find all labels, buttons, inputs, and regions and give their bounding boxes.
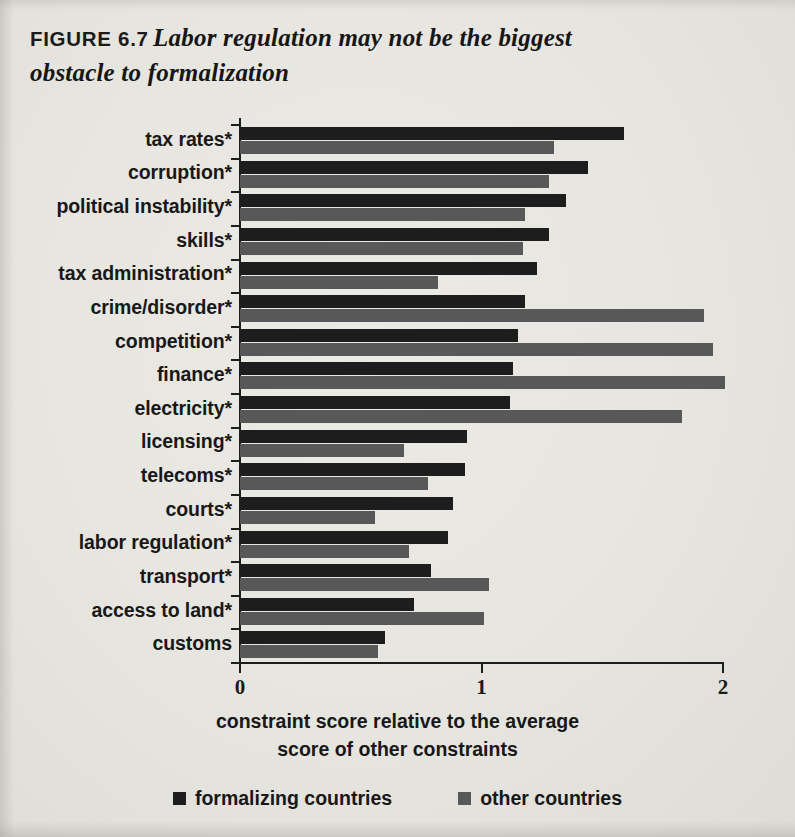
figure-title-text-2: obstacle to formalization bbox=[30, 57, 730, 90]
bar-other bbox=[240, 612, 484, 625]
bar-formalizing bbox=[240, 329, 518, 342]
bar-other bbox=[240, 578, 489, 591]
axis-caption-line-2: score of other constraints bbox=[0, 735, 795, 763]
bar-formalizing bbox=[240, 430, 467, 443]
bar-group bbox=[240, 228, 723, 259]
bar-group bbox=[240, 531, 723, 562]
category-axis-tick bbox=[231, 124, 240, 126]
bar-other bbox=[240, 545, 409, 558]
bar-formalizing bbox=[240, 463, 465, 476]
x-axis-tick-label: 2 bbox=[718, 675, 729, 700]
legend-label-other: other countries bbox=[480, 787, 622, 810]
category-label: competition* bbox=[0, 330, 232, 353]
legend-swatch-gray-icon bbox=[458, 792, 471, 805]
bar-group bbox=[240, 497, 723, 528]
category-axis-tick bbox=[231, 494, 240, 496]
category-axis-labels: tax rates*corruption*political instabili… bbox=[0, 124, 232, 662]
bar-formalizing bbox=[240, 127, 624, 140]
bar-group bbox=[240, 262, 723, 293]
bar-other bbox=[240, 276, 438, 289]
bar-group bbox=[240, 194, 723, 225]
x-axis-tick-label: 0 bbox=[235, 675, 246, 700]
figure-title-text-1: Labor regulation may not be the biggest bbox=[153, 24, 572, 51]
category-label: telecoms* bbox=[0, 464, 232, 487]
category-label: tax administration* bbox=[0, 262, 232, 285]
bar-group bbox=[240, 564, 723, 595]
bar-group bbox=[240, 161, 723, 192]
category-label: skills* bbox=[0, 229, 232, 252]
category-axis-tick bbox=[231, 528, 240, 530]
bar-formalizing bbox=[240, 262, 537, 275]
bar-group bbox=[240, 463, 723, 494]
figure-title-line-1: FIGURE 6.7 Labor regulation may not be t… bbox=[30, 22, 730, 55]
bar-other bbox=[240, 477, 428, 490]
figure-number: FIGURE 6.7 bbox=[30, 27, 149, 50]
bar-group bbox=[240, 295, 723, 326]
bar-formalizing bbox=[240, 564, 431, 577]
category-axis-tick bbox=[231, 662, 240, 664]
category-label: corruption* bbox=[0, 161, 232, 184]
axis-caption: constraint score relative to the average… bbox=[0, 707, 795, 764]
category-axis-tick bbox=[231, 561, 240, 563]
bar-other bbox=[240, 511, 375, 524]
plot-area: 012 bbox=[240, 124, 723, 662]
x-axis-tick-label: 1 bbox=[476, 675, 487, 700]
bar-group bbox=[240, 329, 723, 360]
legend-item-formalizing: formalizing countries bbox=[173, 787, 392, 810]
category-axis-tick bbox=[231, 292, 240, 294]
bar-other bbox=[240, 645, 378, 658]
bar-formalizing bbox=[240, 161, 588, 174]
category-label: customs bbox=[0, 632, 232, 655]
category-axis-tick bbox=[231, 326, 240, 328]
axis-caption-line-1: constraint score relative to the average bbox=[0, 707, 795, 735]
bar-formalizing bbox=[240, 598, 414, 611]
figure-chart: FIGURE 6.7 Labor regulation may not be t… bbox=[0, 0, 795, 837]
bar-group bbox=[240, 362, 723, 393]
figure-title-block: FIGURE 6.7 Labor regulation may not be t… bbox=[30, 22, 730, 89]
category-axis-tick bbox=[231, 460, 240, 462]
category-axis-tick bbox=[231, 595, 240, 597]
bar-other bbox=[240, 242, 523, 255]
legend-swatch-dark-icon bbox=[173, 792, 186, 805]
bar-other bbox=[240, 309, 704, 322]
bar-other bbox=[240, 444, 404, 457]
bar-other bbox=[240, 208, 525, 221]
bar-formalizing bbox=[240, 228, 549, 241]
category-label: labor regulation* bbox=[0, 531, 232, 554]
bar-group bbox=[240, 396, 723, 427]
category-label: licensing* bbox=[0, 430, 232, 453]
category-label: electricity* bbox=[0, 397, 232, 420]
bar-formalizing bbox=[240, 497, 453, 510]
chart-legend: formalizing countries other countries bbox=[0, 787, 795, 810]
category-label: tax rates* bbox=[0, 128, 232, 151]
bar-formalizing bbox=[240, 362, 513, 375]
legend-label-formalizing: formalizing countries bbox=[195, 787, 392, 810]
category-label: access to land* bbox=[0, 599, 232, 622]
category-label: courts* bbox=[0, 498, 232, 521]
bar-formalizing bbox=[240, 631, 385, 644]
bar-group bbox=[240, 127, 723, 158]
bar-other bbox=[240, 343, 713, 356]
category-axis-tick bbox=[231, 359, 240, 361]
category-label: political instability* bbox=[0, 195, 232, 218]
category-label: crime/disorder* bbox=[0, 296, 232, 319]
category-axis-tick bbox=[231, 427, 240, 429]
bar-other bbox=[240, 376, 725, 389]
bar-formalizing bbox=[240, 194, 566, 207]
category-axis-tick bbox=[231, 393, 240, 395]
bar-formalizing bbox=[240, 396, 510, 409]
bar-other bbox=[240, 175, 549, 188]
bar-group bbox=[240, 430, 723, 461]
category-axis-tick bbox=[231, 628, 240, 630]
bar-formalizing bbox=[240, 531, 448, 544]
bar-group bbox=[240, 598, 723, 629]
x-axis-tick bbox=[722, 662, 724, 673]
category-axis-tick bbox=[231, 259, 240, 261]
bar-other bbox=[240, 141, 554, 154]
legend-item-other: other countries bbox=[458, 787, 622, 810]
bar-formalizing bbox=[240, 295, 525, 308]
category-axis-tick bbox=[231, 225, 240, 227]
category-axis-tick bbox=[231, 191, 240, 193]
category-axis-tick bbox=[231, 158, 240, 160]
category-label: finance* bbox=[0, 363, 232, 386]
